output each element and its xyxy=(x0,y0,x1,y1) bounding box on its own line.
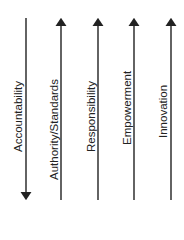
label-innovation: Innovation xyxy=(157,85,169,138)
label-empowerment: Empowerment xyxy=(121,71,133,145)
label-authority-standards: Authority/Standards xyxy=(48,79,60,180)
label-accountability: Accountability xyxy=(12,81,24,152)
label-responsibility: Responsibility xyxy=(85,81,97,152)
